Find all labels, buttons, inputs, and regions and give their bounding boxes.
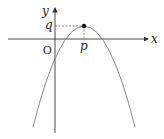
origin-label: O — [43, 43, 52, 57]
parabola-diagram: x y O q p — [0, 0, 164, 139]
q-label: q — [45, 18, 53, 32]
p-label: p — [80, 39, 88, 53]
vertex-point — [82, 24, 86, 28]
y-axis-label: y — [41, 4, 49, 18]
x-axis-label: x — [151, 32, 158, 46]
